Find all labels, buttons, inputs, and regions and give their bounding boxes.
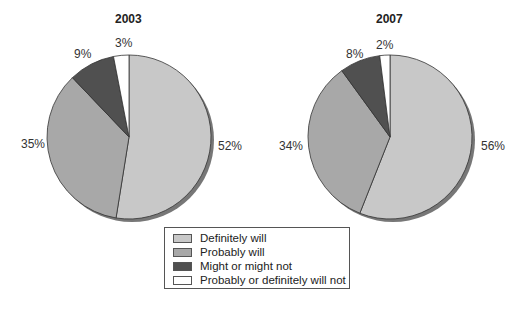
legend-label: Definitely will [200, 232, 266, 244]
swatch-will-not [173, 276, 192, 285]
legend-label: Might or might not [200, 260, 292, 272]
label-2007-might: 8% [346, 47, 363, 61]
legend-item-probably-will: Probably will [173, 245, 349, 259]
label-2003-definitely: 52% [218, 139, 242, 153]
label-2007-definitely: 56% [481, 139, 505, 153]
swatch-might-or-might-not [173, 262, 192, 271]
legend: Definitely will Probably will Might or m… [164, 227, 350, 289]
swatch-probably-will [173, 248, 192, 257]
pie-slice-definitely-will [116, 55, 211, 219]
legend-item-will-not: Probably or definitely will not [173, 273, 349, 287]
legend-item-might-or-might-not: Might or might not [173, 259, 349, 273]
label-2003-might: 9% [74, 47, 91, 61]
legend-label: Probably or definitely will not [200, 274, 346, 286]
legend-item-definitely-will: Definitely will [173, 231, 349, 245]
swatch-definitely-will [173, 234, 192, 243]
label-2003-probably: 35% [21, 137, 45, 151]
label-2003-willnot: 3% [115, 36, 132, 50]
label-2007-willnot: 2% [376, 38, 393, 52]
label-2007-probably: 34% [279, 139, 303, 153]
legend-label: Probably will [200, 246, 265, 258]
